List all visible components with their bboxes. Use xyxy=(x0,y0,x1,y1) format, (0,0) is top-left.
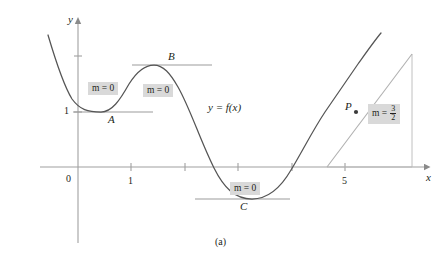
slope-label-a: m = 0 xyxy=(88,82,118,95)
x-tick-label-1: 1 xyxy=(128,176,133,186)
figure-container: y x 0 1 5 1 y = f(x) A B C P m = 0 m = 0… xyxy=(0,0,441,262)
slope-label-c: m = 0 xyxy=(230,182,260,195)
slope-label-b: m = 0 xyxy=(143,84,173,97)
point-marker-p xyxy=(354,110,358,114)
point-label-b: B xyxy=(168,51,175,62)
point-label-a: A xyxy=(108,114,115,125)
y-tick-label-1: 1 xyxy=(64,106,69,116)
function-graph xyxy=(0,0,441,262)
slope-label-p: m = 3 2 xyxy=(368,104,400,124)
x-axis-label: x xyxy=(426,172,431,183)
point-label-c: C xyxy=(240,201,247,212)
point-label-p: P xyxy=(345,101,352,112)
x-tick-label-5: 5 xyxy=(342,176,347,186)
origin-label: 0 xyxy=(66,174,71,184)
slope-label-p-text: m = xyxy=(372,108,387,118)
curve-equation-label: y = f(x) xyxy=(208,102,241,113)
slope-fraction: 3 2 xyxy=(390,105,396,122)
slope-label-c-text: m = 0 xyxy=(234,183,256,193)
slope-label-a-text: m = 0 xyxy=(92,83,114,93)
y-axis-label: y xyxy=(68,14,73,25)
function-curve xyxy=(48,33,381,199)
slope-numerator: 3 xyxy=(390,105,396,113)
figure-caption: (a) xyxy=(0,236,441,247)
slope-denominator: 2 xyxy=(390,113,396,122)
y-axis-arrowhead xyxy=(75,17,81,24)
slope-label-b-text: m = 0 xyxy=(147,85,169,95)
